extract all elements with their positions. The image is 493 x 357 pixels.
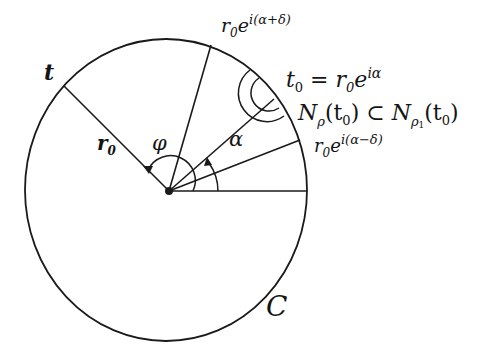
label-circle-c: C: [266, 290, 287, 323]
label-upper-point: r0ei(α+δ): [221, 12, 291, 40]
label-t: t: [44, 59, 54, 85]
diagram-canvas: t r0 φ α r0ei(α+δ) t0 = r0eiα Nρ(t0) ⊂ N…: [0, 0, 493, 357]
ray-t0: [169, 99, 274, 191]
label-neighborhood-inclusion: Nρ(t0) ⊂ Nρ1(t0): [297, 100, 459, 130]
label-lower-point: r0ei(α−δ): [314, 132, 383, 160]
label-t0-equation: t0 = r0eiα: [286, 65, 382, 95]
center-point: [165, 187, 173, 195]
ray-alpha-plus-delta: [169, 45, 211, 191]
label-phi: φ: [152, 131, 167, 155]
alpha-arc: [209, 163, 218, 191]
label-alpha: α: [229, 127, 243, 151]
rays: [64, 45, 307, 191]
